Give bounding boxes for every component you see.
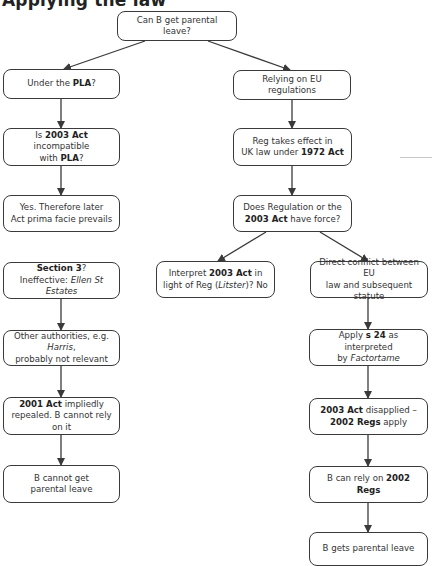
node-text-line: Act prima facie prevails: [11, 214, 112, 226]
arrow-force-to-interpret: [218, 232, 266, 261]
node-text-line: Is 2003 Act incompatible: [8, 130, 115, 153]
node-text-line: parental leave: [31, 484, 93, 496]
node-text-line: by Factortame: [337, 353, 400, 365]
node-text-line: 2001 Act impliedly: [19, 399, 104, 411]
node-text-line: Interpret 2003 Act in: [169, 268, 263, 280]
node-disapplied: 2003 Act disapplied –2002 Regs apply: [309, 398, 428, 435]
node-interpret: Interpret 2003 Act inlight of Reg (Litst…: [156, 261, 275, 298]
node-eu: Relying on EU regulations: [233, 70, 351, 100]
node-other: Other authorities, e.g. Harris,probably …: [3, 330, 120, 366]
node-text-line: Reg takes effect in: [252, 136, 332, 148]
node-cannot: B cannot getparental leave: [3, 465, 120, 503]
node-reg-effect: Reg takes effect inUK law under 1972 Act: [233, 128, 352, 166]
node-s24: Apply s 24 as interpretedby Factortame: [309, 329, 428, 366]
node-text-line: B can rely on 2002 Regs: [314, 473, 423, 496]
node-text-line: with PLA?: [40, 153, 84, 165]
node-text-line: repealed. B cannot rely on it: [8, 410, 115, 433]
node-text-line: Yes. Therefore later: [20, 202, 103, 214]
arrow-root-to-eu: [208, 41, 290, 70]
node-text-line: UK law under 1972 Act: [241, 147, 344, 159]
node-text-line: B gets parental leave: [323, 543, 415, 555]
node-gets: B gets parental leave: [309, 532, 428, 566]
node-text-line: 2003 Act disapplied –: [320, 405, 417, 417]
arrow-root-to-pla: [64, 41, 145, 69]
node-force: Does Regulation or the2003 Act have forc…: [233, 195, 352, 232]
node-text-line: B cannot get: [34, 473, 89, 485]
node-text-line: Under the PLA?: [27, 78, 96, 90]
node-text-line: light of Reg (Litster)? No: [163, 280, 268, 292]
node-text-line: probably not relevant: [15, 354, 108, 366]
node-text-line: Apply s 24 as interpreted: [314, 330, 423, 353]
node-text-line: Section 3?: [37, 263, 87, 275]
node-text-line: Does Regulation or the: [243, 202, 342, 214]
node-prevails: Yes. Therefore laterAct prima facie prev…: [3, 195, 120, 232]
faint-divider-line: [400, 157, 432, 158]
node-canrely: B can rely on 2002 Regs: [309, 466, 428, 503]
node-incompat: Is 2003 Act incompatiblewith PLA?: [3, 128, 120, 166]
node-root: Can B get parental leave?: [117, 11, 237, 41]
node-text-line: 2003 Act have force?: [245, 214, 341, 226]
node-text-line: law and subsequent statute: [315, 280, 423, 303]
node-text-line: Ineffective: Ellen St Estates: [8, 275, 115, 298]
node-repealed: 2001 Act impliedlyrepealed. B cannot rel…: [3, 397, 120, 435]
node-text-line: Relying on EU regulations: [238, 74, 346, 97]
node-text-line: 2002 Regs apply: [330, 417, 407, 429]
node-pla: Under the PLA?: [3, 69, 120, 99]
node-text-line: Direct conflict between EU: [315, 257, 423, 280]
node-conflict: Direct conflict between EUlaw and subseq…: [310, 261, 428, 298]
node-text-line: Can B get parental leave?: [122, 15, 232, 38]
node-section3: Section 3?Ineffective: Ellen St Estates: [3, 262, 120, 299]
node-text-line: Other authorities, e.g. Harris,: [8, 331, 115, 354]
